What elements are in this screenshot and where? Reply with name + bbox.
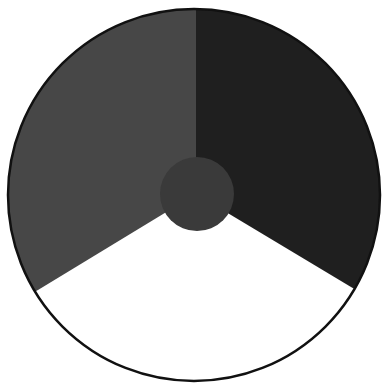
disc-diagram	[0, 0, 386, 389]
center-hub	[160, 157, 234, 231]
disc-svg	[0, 0, 386, 389]
